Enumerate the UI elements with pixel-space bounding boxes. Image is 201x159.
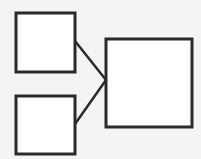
diagram-canvas [0,0,201,159]
box-right [106,39,192,127]
box-top-left [16,13,75,72]
box-bottom-left [16,96,75,154]
